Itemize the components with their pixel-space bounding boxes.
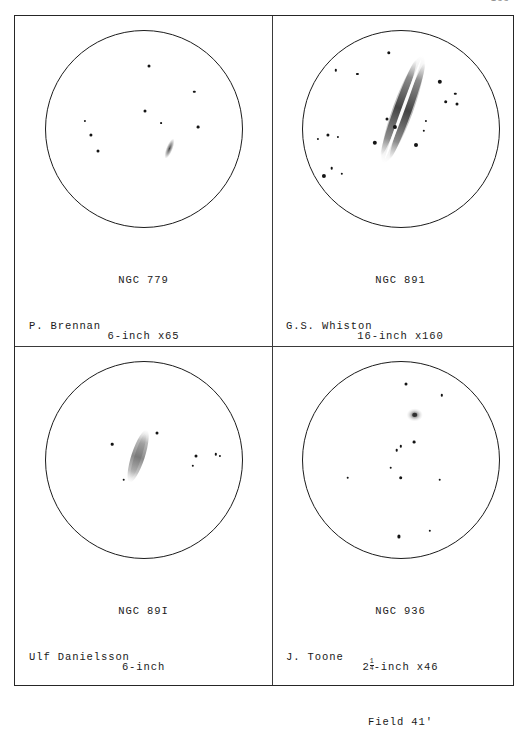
sketch-panel-ngc-779: NGC 779 6-inch x65 Field 46' P. Brennan <box>15 16 272 346</box>
star-dot <box>97 149 100 152</box>
sky-canvas <box>303 362 499 558</box>
eyepiece-field-circle <box>302 361 500 559</box>
star-dot <box>438 478 441 481</box>
star-dot <box>413 441 416 444</box>
eyepiece-field-circle <box>45 361 243 559</box>
star-dot <box>195 455 198 458</box>
page-number: 133 <box>491 0 510 1</box>
object-designation: NGC 779 <box>15 271 272 290</box>
sketch-panel-ngc-936: NGC 936 214-inch x46 Field 41' J. Toone <box>272 347 528 677</box>
observer-name: J. Toone <box>286 651 344 663</box>
observer-name: G.S. Whiston <box>286 320 372 332</box>
observer-name: Ulf Danielsson <box>29 651 130 663</box>
field-size: Field 41' <box>272 713 528 729</box>
galaxy-ngc-891 <box>373 53 431 167</box>
star-dot <box>414 143 418 147</box>
star-dot <box>111 443 114 446</box>
star-dot <box>395 449 398 452</box>
object-designation: NGC 891 <box>272 271 528 290</box>
sketch-panel-ngc-891-whiston: NGC 891 16-inch x160 Field 14' G.S. Whis… <box>272 16 528 346</box>
fraction-numerator: 1 <box>370 659 374 665</box>
star-dot <box>444 100 448 104</box>
galaxy-ngc-779 <box>162 137 176 159</box>
object-designation: NGC 936 <box>272 602 528 621</box>
observation-plate: NGC 779 6-inch x65 Field 46' P. Brennan <box>14 15 514 686</box>
sky-canvas <box>46 362 242 558</box>
object-designation: NGC 89I <box>15 602 272 621</box>
sketch-panel-ngc-891-danielsson: NGC 89I 6-inch Ulf Danielsson <box>15 347 272 677</box>
star-dot <box>456 102 459 105</box>
star-dot <box>346 476 349 479</box>
star-dot <box>389 467 392 470</box>
aperture-whole: 2 <box>363 661 370 673</box>
star-dot <box>405 382 408 385</box>
aperture-tail: -inch x46 <box>374 661 439 673</box>
galaxy-ngc-891-faint <box>123 428 153 484</box>
galaxy-ngc-936 <box>406 408 422 421</box>
sketch-caption: NGC 89I 6-inch <box>15 565 272 729</box>
fraction-denominator: 4 <box>370 665 374 672</box>
star-dot <box>156 431 159 434</box>
sky-canvas <box>303 31 499 227</box>
sky-canvas <box>46 31 242 227</box>
star-dot <box>144 110 147 113</box>
eyepiece-field-circle <box>45 30 243 228</box>
star-dot <box>331 167 334 170</box>
aperture-fraction: 14 <box>370 659 374 671</box>
star-dot <box>399 476 403 480</box>
observer-name: P. Brennan <box>29 320 101 332</box>
star-dot <box>160 122 162 124</box>
star-dot <box>385 118 388 121</box>
eyepiece-field-circle <box>302 30 500 228</box>
sketch-caption: NGC 936 214-inch x46 Field 41' <box>272 565 528 729</box>
star-dot <box>123 478 126 481</box>
star-dot <box>197 126 200 129</box>
star-dot <box>148 65 151 68</box>
